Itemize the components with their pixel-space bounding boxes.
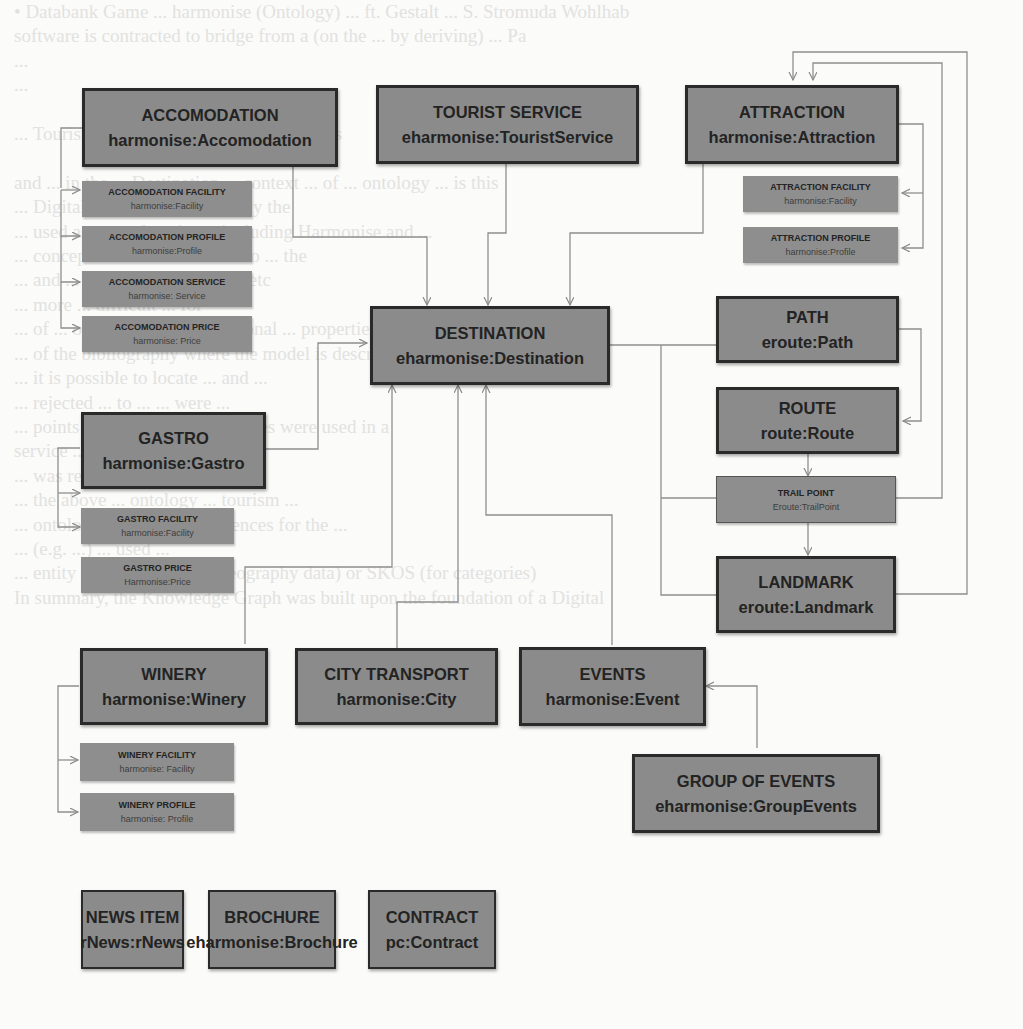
node-destination: DESTINATION eharmonise:Destination xyxy=(370,306,610,385)
node-label: ATTRACTION PROFILE xyxy=(771,231,870,245)
node-label: TRAIL POINT xyxy=(778,486,834,500)
node-accomodation-service: ACCOMODATION SERVICE harmonise: Service xyxy=(82,271,252,307)
node-uri: harmonise:Attraction xyxy=(709,125,876,150)
node-uri: harmonise:Facility xyxy=(784,194,857,208)
node-uri: eroute:Landmark xyxy=(739,595,874,620)
node-label: WINERY xyxy=(141,662,206,687)
node-label: WINERY PROFILE xyxy=(118,798,195,812)
node-label: ATTRACTION xyxy=(739,100,845,125)
node-label: GASTRO xyxy=(138,426,209,451)
node-label: ACCOMODATION PROFILE xyxy=(109,230,225,244)
node-uri: harmonise: Profile xyxy=(121,812,194,826)
node-label: BROCHURE xyxy=(224,905,319,930)
node-label: ROUTE xyxy=(779,396,837,421)
node-path: PATH eroute:Path xyxy=(716,296,899,363)
node-winery: WINERY harmonise:Winery xyxy=(80,648,268,725)
node-accomodation-facility: ACCOMODATION FACILITY harmonise:Facility xyxy=(82,181,252,217)
node-uri: harmonise:Profile xyxy=(132,244,202,258)
node-label: LANDMARK xyxy=(758,570,853,595)
node-label: ACCOMODATION PRICE xyxy=(115,320,220,334)
node-brochure: BROCHURE eharmonise:Brochure xyxy=(208,890,336,969)
node-attraction-profile: ATTRACTION PROFILE harmonise:Profile xyxy=(743,227,898,263)
node-uri: harmonise: Service xyxy=(128,289,205,303)
node-uri: route:Route xyxy=(761,421,855,446)
node-uri: harmonise: Price xyxy=(133,334,201,348)
node-label: GROUP OF EVENTS xyxy=(677,769,835,794)
node-winery-profile: WINERY PROFILE harmonise: Profile xyxy=(80,793,234,831)
node-group-of-events: GROUP OF EVENTS eharmonise:GroupEvents xyxy=(632,754,880,833)
node-label: ACCOMODATION FACILITY xyxy=(108,185,225,199)
node-uri: harmonise: Facility xyxy=(119,762,194,776)
node-news-item: NEWS ITEM rNews:rNews xyxy=(81,890,184,969)
node-uri: Harmonise:Price xyxy=(124,575,191,589)
node-uri: rNews:rNews xyxy=(80,930,185,955)
node-gastro-price: GASTRO PRICE Harmonise:Price xyxy=(81,557,234,593)
node-uri: Eroute:TrailPoint xyxy=(773,500,840,514)
node-winery-facility: WINERY FACILITY harmonise: Facility xyxy=(80,743,234,781)
node-uri: harmonise:Facility xyxy=(131,199,204,213)
node-tourist-service: TOURIST SERVICE eharmonise:TouristServic… xyxy=(376,85,639,164)
node-uri: eharmonise:GroupEvents xyxy=(655,794,857,819)
node-uri: harmonise:Winery xyxy=(102,687,246,712)
node-events: EVENTS harmonise:Event xyxy=(519,647,706,726)
node-gastro-facility: GASTRO FACILITY harmonise:Facility xyxy=(81,508,234,544)
node-label: EVENTS xyxy=(579,662,645,687)
node-gastro: GASTRO harmonise:Gastro xyxy=(81,412,266,489)
node-accomodation-profile: ACCOMODATION PROFILE harmonise:Profile xyxy=(82,226,252,262)
node-label: GASTRO PRICE xyxy=(123,561,192,575)
node-uri: eharmonise:Brochure xyxy=(186,930,357,955)
node-route: ROUTE route:Route xyxy=(716,387,899,454)
node-uri: eharmonise:Destination xyxy=(396,346,584,371)
node-accomodation: ACCOMODATION harmonise:Accomodation xyxy=(82,88,338,167)
node-uri: harmonise:Gastro xyxy=(102,451,244,476)
node-uri: harmonise:Facility xyxy=(121,526,194,540)
node-attraction: ATTRACTION harmonise:Attraction xyxy=(685,85,899,164)
node-label: ACCOMODATION xyxy=(141,103,278,128)
node-uri: harmonise:Accomodation xyxy=(108,128,312,153)
node-trail-point: TRAIL POINT Eroute:TrailPoint xyxy=(716,476,896,523)
node-label: NEWS ITEM xyxy=(86,905,180,930)
node-label: WINERY FACILITY xyxy=(118,748,196,762)
node-landmark: LANDMARK eroute:Landmark xyxy=(716,556,896,633)
node-label: GASTRO FACILITY xyxy=(117,512,198,526)
node-label: CONTRACT xyxy=(386,905,479,930)
node-city-transport: CITY TRANSPORT harmonise:City xyxy=(295,648,498,725)
node-uri: harmonise:City xyxy=(336,687,456,712)
node-label: DESTINATION xyxy=(435,321,546,346)
node-label: ACCOMODATION SERVICE xyxy=(109,275,226,289)
node-uri: harmonise:Profile xyxy=(785,245,855,259)
node-label: ATTRACTION FACILITY xyxy=(770,180,870,194)
node-attraction-facility: ATTRACTION FACILITY harmonise:Facility xyxy=(743,176,898,212)
node-uri: eroute:Path xyxy=(762,330,854,355)
node-accomodation-price: ACCOMODATION PRICE harmonise: Price xyxy=(82,316,252,352)
node-label: TOURIST SERVICE xyxy=(433,100,582,125)
node-label: PATH xyxy=(786,305,828,330)
node-uri: pc:Contract xyxy=(386,930,479,955)
node-uri: eharmonise:TouristService xyxy=(402,125,614,150)
node-contract: CONTRACT pc:Contract xyxy=(368,890,496,969)
node-label: CITY TRANSPORT xyxy=(324,662,469,687)
node-uri: harmonise:Event xyxy=(546,687,680,712)
